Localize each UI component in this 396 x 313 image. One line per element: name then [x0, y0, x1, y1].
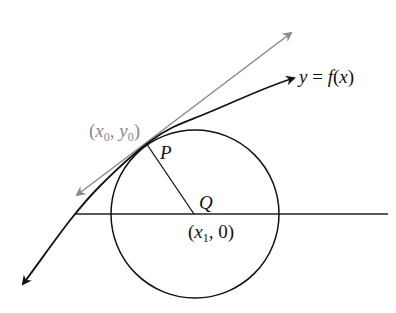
point-q-label: Q	[199, 192, 213, 213]
curve-label: y = f(x)	[297, 66, 354, 88]
tangent-point-label: (x0, y0)	[89, 120, 140, 144]
point-p-label: P	[159, 142, 172, 163]
curve-f	[23, 78, 294, 284]
tangent-line	[77, 33, 291, 195]
diagram-canvas: y = f(x) (x0, y0) P Q (x1, 0)	[0, 0, 396, 313]
center-point-label: (x1, 0)	[188, 221, 234, 245]
